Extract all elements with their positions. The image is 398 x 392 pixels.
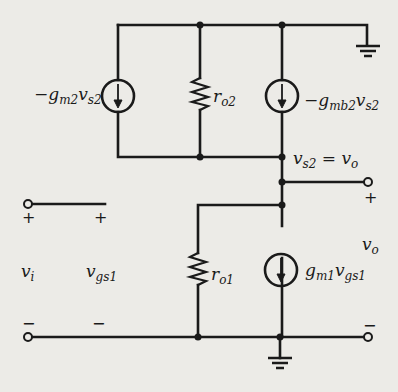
vi-label: vi — [21, 263, 34, 283]
ro1-zigzag — [190, 253, 206, 285]
vo-label: vo — [362, 236, 379, 256]
output-plus-terminal — [364, 178, 372, 186]
node-vs2-vo-label: vs2 = vo — [293, 150, 358, 170]
gm2-label: −gm2vs2 — [34, 86, 102, 106]
ro2-label: ro2 — [213, 88, 236, 108]
input-plus-sign: + — [22, 210, 35, 226]
input-minus-terminal — [24, 333, 32, 341]
ground-icon — [268, 358, 292, 368]
output-plus-sign: + — [364, 190, 377, 206]
output-minus-sign: − — [363, 318, 376, 334]
input-minus-sign: − — [22, 316, 35, 332]
gmb2-label: −gmb2vs2 — [304, 92, 379, 112]
vgs1-label: vgs1 — [86, 263, 117, 283]
gm2-current-source — [102, 80, 134, 112]
circuit-diagram: −gm2vs2 ro2 −gmb2vs2 vs2 = vo ro1 gm1vgs… — [0, 0, 398, 392]
gm1-current-source — [265, 254, 297, 286]
circuit-schematic — [0, 0, 398, 392]
top-wire — [118, 25, 367, 45]
ro1-label: ro1 — [211, 266, 234, 286]
input-plus-terminal — [24, 200, 32, 208]
gm1-label: gm1vgs1 — [305, 262, 366, 282]
gmb2-current-source — [266, 80, 298, 112]
junction-dots — [195, 22, 286, 341]
ground-icon — [356, 46, 380, 56]
vgs1-plus-sign: + — [94, 210, 107, 226]
ro2-zigzag — [192, 78, 208, 110]
vgs1-minus-sign: − — [92, 316, 105, 332]
